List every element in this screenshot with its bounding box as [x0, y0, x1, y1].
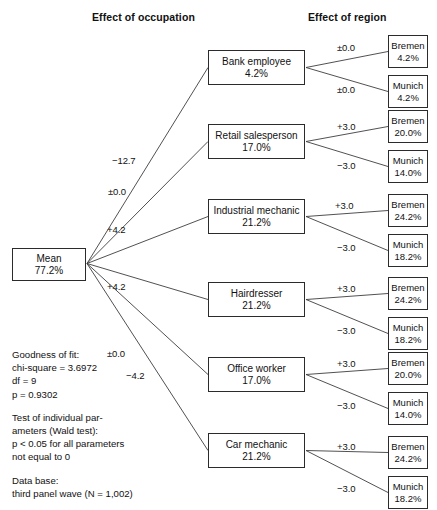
node-label: Hairdresser: [231, 288, 283, 300]
goodness-of-fit-line: p = 0.9302: [12, 388, 187, 401]
data-base-group: Data base: third panel wave (N = 1,002): [12, 474, 187, 500]
node-occupation: Office worker17.0%: [208, 357, 305, 392]
node-value: 4.2%: [397, 52, 419, 63]
edge-label-region-effect: −3.0: [337, 242, 355, 253]
node-label: Retail salesperson: [215, 130, 297, 142]
wald-test-line: Test of individual par-: [12, 411, 187, 424]
node-region: Bremen24.2%: [388, 436, 428, 469]
node-label: Munich: [393, 80, 424, 91]
edge-label-region-effect: −3.0: [337, 400, 355, 411]
node-value: 18.2%: [395, 493, 422, 504]
node-value: 77.2%: [35, 265, 63, 277]
edge-label-region-effect: ±0.0: [337, 84, 355, 95]
node-label: Munich: [393, 322, 424, 333]
edge-label-region-effect: ±0.0: [337, 42, 355, 53]
node-occupation: Car mechanic21.2%: [208, 433, 305, 468]
wald-test-line: ameters (Wald test):: [12, 424, 187, 437]
node-mean: Mean77.2%: [12, 248, 86, 281]
node-value: 4.2%: [397, 92, 419, 103]
node-region: Munich14.0%: [388, 150, 428, 183]
edge-occupation-to-region: [306, 294, 388, 300]
edge-occupation-to-region: [306, 369, 388, 375]
node-value: 21.2%: [242, 451, 270, 463]
edge-label-occupation-effect: +4.2: [107, 224, 125, 235]
edge-label-region-effect: +3.0: [337, 358, 355, 369]
node-label: Bremen: [391, 199, 424, 210]
node-value: 14.0%: [395, 409, 422, 420]
data-base-heading: Data base:: [12, 474, 187, 487]
node-value: 21.2%: [242, 300, 270, 312]
wald-test-line: not equal to 0: [12, 450, 187, 463]
wald-test-group: Test of individual par- ameters (Wald te…: [12, 411, 187, 464]
statistics-notes: Goodness of fit: chi-square = 3.6972 df …: [12, 348, 187, 500]
node-value: 24.2%: [395, 294, 422, 305]
edge-label-region-effect: +3.0: [335, 200, 353, 211]
node-region: Munich18.2%: [388, 317, 428, 350]
node-value: 20.0%: [395, 369, 422, 380]
node-region: Bremen24.2%: [388, 277, 428, 310]
edge-label-region-effect: −3.0: [337, 325, 355, 336]
edge-label-region-effect: +3.0: [337, 121, 355, 132]
edge-occupation-to-region: [306, 211, 388, 217]
node-label: Bremen: [391, 282, 424, 293]
goodness-of-fit-line: chi-square = 3.6972: [12, 361, 187, 374]
node-value: 24.2%: [395, 211, 422, 222]
node-label: Munich: [393, 397, 424, 408]
node-label: Car mechanic: [226, 439, 288, 451]
node-value: 18.2%: [395, 334, 422, 345]
edge-label-region-effect: +3.0: [337, 283, 355, 294]
node-region: Bremen20.0%: [388, 352, 428, 385]
node-value: 21.2%: [242, 217, 270, 229]
goodness-of-fit-heading: Goodness of fit:: [12, 348, 187, 361]
edge-mean-to-occupation: [87, 217, 208, 264]
node-label: Bremen: [391, 40, 424, 51]
edge-label-occupation-effect: ±0.0: [108, 186, 126, 197]
edge-occupation-to-region: [306, 52, 388, 68]
wald-test-line: p < 0.05 for all parameters: [12, 437, 187, 450]
node-label: Bank employee: [222, 56, 291, 68]
edge-label-region-effect: −3.0: [337, 160, 355, 171]
node-region: Munich14.0%: [388, 392, 428, 425]
node-label: Munich: [393, 239, 424, 250]
node-value: 24.2%: [395, 453, 422, 464]
node-occupation: Hairdresser21.2%: [208, 282, 305, 317]
node-value: 14.0%: [395, 167, 422, 178]
node-region: Munich18.2%: [388, 234, 428, 267]
effect-decomposition-diagram: Conditional effects Effect of occupation…: [0, 0, 437, 510]
node-occupation: Bank employee4.2%: [208, 50, 305, 85]
node-region: Bremen4.2%: [388, 35, 428, 68]
node-value: 4.2%: [245, 68, 268, 80]
node-region: Bremen20.0%: [388, 110, 428, 143]
edge-mean-to-occupation: [87, 142, 208, 264]
edge-mean-to-occupation: [87, 264, 208, 300]
edge-label-region-effect: +3.0: [337, 441, 355, 452]
node-label: Munich: [393, 155, 424, 166]
node-value: 17.0%: [242, 375, 270, 387]
node-label: Bremen: [391, 115, 424, 126]
edge-label-occupation-effect: +4.2: [107, 281, 125, 292]
node-region: Munich4.2%: [388, 75, 428, 108]
node-label: Industrial mechanic: [213, 205, 299, 217]
goodness-of-fit-line: df = 9: [12, 374, 187, 387]
node-value: 17.0%: [242, 142, 270, 154]
node-region: Munich18.2%: [388, 476, 428, 509]
node-occupation: Retail salesperson17.0%: [208, 124, 305, 159]
edge-label-occupation-effect: −12.7: [112, 155, 136, 166]
node-label: Bremen: [391, 441, 424, 452]
node-value: 18.2%: [395, 251, 422, 262]
data-base-line: third panel wave (N = 1,002): [12, 487, 187, 500]
goodness-of-fit-group: Goodness of fit: chi-square = 3.6972 df …: [12, 348, 187, 401]
node-label: Mean: [36, 253, 61, 265]
node-region: Bremen24.2%: [388, 194, 428, 227]
node-value: 20.0%: [395, 127, 422, 138]
node-label: Bremen: [391, 357, 424, 368]
edge-label-region-effect: −3.0: [337, 483, 355, 494]
node-label: Munich: [393, 481, 424, 492]
edge-mean-to-occupation: [87, 68, 208, 264]
node-label: Office worker: [227, 363, 286, 375]
node-occupation: Industrial mechanic21.2%: [208, 199, 305, 234]
